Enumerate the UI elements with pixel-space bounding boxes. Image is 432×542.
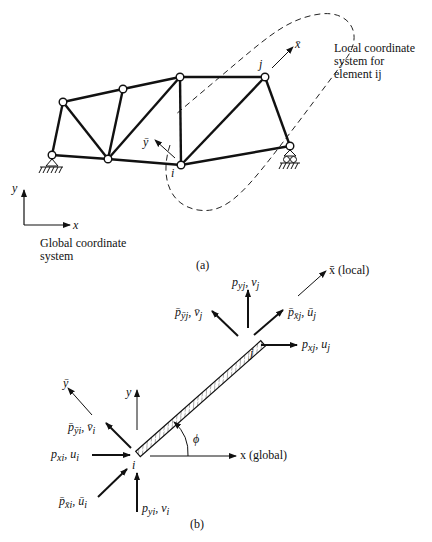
pyj-label: pyj, vj	[232, 276, 259, 292]
vi-symbol: , v	[155, 501, 166, 515]
pxi-label: pxi, ui	[51, 448, 79, 464]
global-coordinate-label-line2: system	[40, 250, 73, 263]
local-coordinate-label-line3: element ij	[334, 68, 382, 81]
roller-support	[279, 150, 300, 169]
figure-b-caption: (b)	[190, 518, 204, 531]
force-pbar-yj-arrow	[212, 311, 238, 336]
local-x-axis-arrow	[272, 47, 293, 68]
local-y-axis-b	[68, 388, 92, 415]
ubar-i-subscript: i	[84, 499, 87, 510]
pbar-yj-label: p̄ȳj, v̄j	[175, 306, 202, 322]
local-coordinate-region	[166, 14, 354, 211]
pbar-yi-label: p̄ȳi, v̄i	[68, 421, 95, 437]
local-x-label-a: x̄	[295, 38, 300, 51]
uj-symbol: , u	[315, 337, 327, 351]
x-local-text: x̄ (local)	[329, 263, 369, 277]
figure-a-caption: (a)	[196, 259, 209, 272]
ui-symbol: , u	[64, 447, 76, 461]
node-i-label-a: i	[171, 167, 174, 180]
truss-figure-a	[24, 14, 354, 225]
global-y-label: y	[12, 182, 17, 195]
vbar-j-symbol: , v̄	[188, 305, 199, 319]
local-x-axis-b	[298, 271, 326, 296]
node-i-label-b: i	[132, 459, 135, 472]
element-ij-bar	[136, 341, 266, 457]
ui-subscript: i	[76, 452, 79, 463]
vbar-i-symbol: , v̄	[81, 420, 92, 434]
local-y-label-b: ȳ	[63, 377, 68, 390]
pxj-label: pxj, uj	[302, 338, 330, 354]
uj-subscript: j	[327, 342, 330, 353]
node-j-label-a: j	[259, 58, 262, 71]
vj-symbol: , v	[245, 275, 256, 289]
x-global-label: x (global)	[240, 449, 287, 462]
force-pbar-xi-arrow	[98, 469, 127, 497]
force-pbar-xj-arrow	[254, 310, 283, 335]
local-y-label-a: ȳ	[143, 136, 148, 149]
global-x-label: x	[73, 219, 78, 232]
pbar-xj-label: p̄x̄j, ūj	[288, 306, 316, 322]
vbar-j-subscript: j	[200, 310, 203, 321]
ubar-j-subscript: j	[313, 310, 316, 321]
angle-phi-label: ϕ	[193, 433, 199, 446]
pyi-label: pyi, vi	[142, 502, 169, 518]
local-y-axis-arrow	[155, 140, 175, 158]
vj-subscript: j	[257, 280, 260, 291]
force-pbar-yi-arrow	[106, 423, 131, 448]
node-j-label-b: j	[250, 347, 253, 360]
x-local-label: x̄ (local)	[329, 264, 369, 277]
truss-members	[52, 77, 290, 165]
global-y-label-b: y	[126, 386, 131, 399]
angle-phi-arc	[174, 422, 188, 456]
pbar-xi-label: p̄x̄i, ūi	[59, 495, 87, 511]
pin-support	[39, 159, 63, 173]
vbar-i-subscript: i	[93, 425, 96, 436]
vi-subscript: i	[167, 506, 170, 517]
ubar-i-symbol: , ū	[72, 494, 84, 508]
ubar-j-symbol: , ū	[301, 305, 313, 319]
